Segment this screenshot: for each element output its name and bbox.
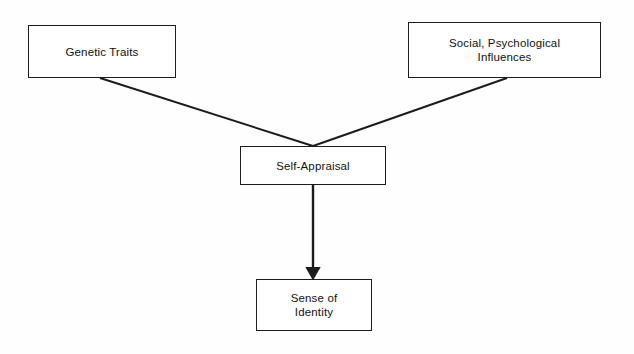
diagram-canvas: Genetic Traits Social, Psychological Inf… [0,0,634,354]
node-self-appraisal-label: Self-Appraisal [272,159,354,173]
node-sense-of-identity-label: Sense of Identity [287,291,342,319]
node-self-appraisal: Self-Appraisal [240,146,386,185]
node-social-influences: Social, Psychological Influences [408,22,601,78]
node-genetic-traits: Genetic Traits [28,25,176,78]
connector-social-influences-to-self-appraisal [313,78,507,146]
node-social-influences-label: Social, Psychological Influences [445,36,564,64]
connector-genetic-traits-to-self-appraisal [100,78,313,146]
node-sense-of-identity: Sense of Identity [256,279,372,331]
node-genetic-traits-label: Genetic Traits [61,45,142,59]
